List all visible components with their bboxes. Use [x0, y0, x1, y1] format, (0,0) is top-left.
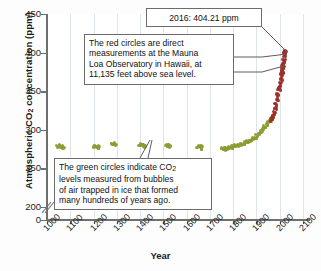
- gridline-vertical: [303, 14, 304, 220]
- y-axis-tick-label: 0: [1, 214, 41, 225]
- callout-text: The green circles indicate CO: [59, 162, 172, 172]
- y-axis-tick-label: 350: [1, 85, 41, 96]
- callout-line: levels measured from bubbles: [59, 174, 207, 184]
- y-axis-tick-labels: 0200250300350400450: [0, 0, 41, 271]
- callout-subscript: 2: [172, 165, 176, 172]
- callout-line: of air trapped in ice that formed: [59, 185, 207, 195]
- y-axis-tick: [41, 130, 46, 131]
- data-point-ice-core: [143, 146, 146, 149]
- callout-green-circles-note: The green circles indicate CO2 levels me…: [54, 158, 212, 210]
- y-axis-tick: [41, 168, 46, 169]
- data-point-ice-core: [266, 122, 269, 125]
- callout-line: measurements at the Mauna: [89, 48, 229, 58]
- data-point-mauna-loa: [278, 85, 281, 88]
- gridline-vertical: [256, 14, 257, 220]
- y-axis-tick: [41, 53, 46, 54]
- y-axis-tick: [41, 14, 46, 15]
- x-axis-title: Year: [0, 250, 321, 261]
- data-point-ice-core: [255, 136, 258, 139]
- y-axis-tick-label: 300: [1, 124, 41, 135]
- y-axis-tick-label: 200: [1, 201, 41, 212]
- gridline-vertical: [280, 14, 281, 220]
- callout-line: 11,135 feet above sea level.: [89, 69, 229, 79]
- y-axis-tick: [41, 220, 46, 221]
- data-point-mauna-loa: [274, 102, 277, 105]
- data-point-ice-core: [56, 146, 59, 149]
- data-point-mauna-loa: [275, 108, 278, 111]
- data-point-mauna-loa: [283, 49, 286, 52]
- callout-red-circles-note: The red circles are direct measurements …: [84, 34, 234, 85]
- data-point-mauna-loa: [283, 59, 286, 62]
- callout-line: Loa Observatory in Hawaii, at: [89, 59, 229, 69]
- callout-peak-value: 2016: 404.21 ppm: [146, 8, 262, 27]
- data-point-mauna-loa: [276, 97, 279, 100]
- callout-line: The green circles indicate CO2: [59, 162, 207, 174]
- callout-line: The red circles are direct: [89, 38, 229, 48]
- y-axis-tick: [41, 91, 46, 92]
- data-point-ice-core: [113, 143, 116, 146]
- callout-line: many hundreds of years ago.: [59, 195, 207, 205]
- y-axis-tick-label: 450: [1, 8, 41, 19]
- data-point-mauna-loa: [281, 78, 284, 81]
- y-axis-tick: [41, 207, 46, 208]
- y-axis-tick-label: 250: [1, 162, 41, 173]
- y-axis-line: [46, 14, 48, 220]
- co2-concentration-chart: Atmospheric CO2 concentration (ppm) Year…: [0, 0, 321, 271]
- y-axis-tick-label: 400: [1, 47, 41, 58]
